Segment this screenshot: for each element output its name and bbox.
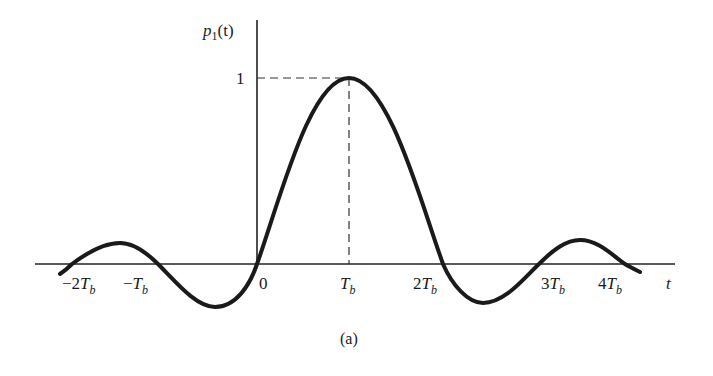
x-tick-2Tb: 2Tb — [413, 274, 437, 297]
x-tick-minus-2Tb: −2Tb — [62, 274, 96, 297]
x-tick-Tb: Tb — [340, 274, 355, 297]
pulse-figure: p1(t) 1 −2Tb −Tb 0 Tb 2Tb 3Tb 4Tb t (a) — [0, 0, 713, 376]
x-axis-label: t — [666, 274, 672, 293]
x-tick-4Tb: 4Tb — [598, 274, 622, 297]
y-axis-label: p1(t) — [202, 21, 234, 43]
pulse-curve — [60, 78, 640, 307]
x-tick-3Tb: 3Tb — [541, 274, 565, 297]
y-tick-1: 1 — [236, 69, 245, 88]
figure-caption: (a) — [340, 330, 358, 348]
x-tick-minus-Tb: −Tb — [123, 274, 148, 297]
x-tick-0: 0 — [259, 274, 268, 293]
